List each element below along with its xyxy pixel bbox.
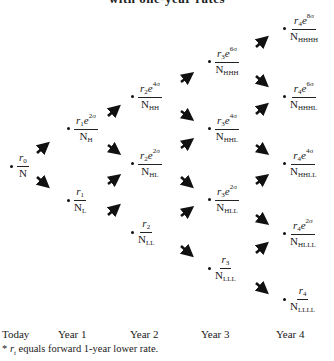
denominator: NHLL (216, 201, 238, 215)
node-fraction: r4e6σNHHHL (290, 81, 317, 112)
denominator: N (19, 167, 27, 181)
node-dot (67, 199, 70, 202)
numerator: r2e2σ (138, 148, 162, 165)
denominator: NHHHL (290, 98, 317, 112)
node-y2-hh: r2e4σNHH (131, 81, 162, 112)
node-fraction: r4e4σNHHLL (290, 148, 317, 179)
node-fraction: r1e2σNH (74, 113, 98, 144)
footnote: * rt equals forward 1-year lower rate. (2, 343, 158, 357)
denominator: NHLLL (290, 235, 316, 249)
denominator: NHL (141, 165, 158, 179)
numerator: r3e4σ (215, 113, 239, 130)
numerator: r0 (17, 152, 29, 167)
node-y3-hhh: r3e6σNHHH (208, 46, 239, 77)
node-y4-hhhl: r4e6σNHHHL (283, 81, 317, 112)
node-dot (208, 267, 211, 270)
numerator: r2e4σ (138, 81, 162, 98)
numerator: r3e2σ (215, 184, 239, 201)
node-dot (283, 27, 286, 30)
node-dot (131, 162, 134, 165)
node-y4-hlll: r4e2σNHLLL (283, 218, 316, 249)
node-dot (283, 95, 286, 98)
node-fraction: r3e4σNHHL (215, 113, 239, 144)
node-dot (208, 60, 211, 63)
denominator: NHH (141, 98, 159, 112)
numerator: r1e2σ (74, 113, 98, 130)
node-y2-hl: r2e2σNHL (131, 148, 162, 179)
node-y3-hhl: r3e4σNHHL (208, 113, 239, 144)
node-y4-llll: r4NLLLL (283, 285, 315, 314)
denominator: NHHH (215, 63, 238, 77)
node-fraction: r2e2σNHL (138, 148, 162, 179)
node-fraction: r4e8σNHHHH (290, 13, 318, 44)
node-y4-hhll: r4e4σNHHLL (283, 148, 317, 179)
axis-label-year1: Year 1 (58, 328, 87, 340)
denominator: NH (79, 130, 92, 144)
node-dot (131, 231, 134, 234)
node-fraction: r4e2σNHLLL (290, 218, 316, 249)
denominator: NHHLL (290, 165, 317, 179)
denominator: NLL (138, 233, 155, 247)
numerator: r4 (297, 285, 309, 300)
node-fraction: r2NLL (138, 218, 155, 247)
numerator: r3 (220, 254, 232, 269)
node-fraction: r1NL (74, 186, 86, 215)
numerator: r4e4σ (291, 148, 315, 165)
node-today: r0N (10, 152, 29, 181)
node-dot (283, 162, 286, 165)
axis-label-today: Today (2, 328, 29, 340)
numerator: r4e2σ (291, 218, 315, 235)
node-y3-hll: r3e2σNHLL (208, 184, 239, 215)
denominator: NLLLL (290, 300, 315, 314)
node-dot (283, 298, 286, 301)
numerator: r3e6σ (215, 46, 239, 63)
diagram-title: with one-year rates (0, 0, 334, 7)
node-y2-ll: r2NLL (131, 218, 155, 247)
axis-label-year2: Year 2 (130, 328, 159, 340)
node-dot (10, 165, 13, 168)
node-fraction: r3NLLL (215, 254, 236, 283)
node-fraction: r3e2σNHLL (215, 184, 239, 215)
axis-label-year4: Year 4 (276, 328, 305, 340)
numerator: r4e6σ (292, 81, 316, 98)
node-dot (208, 198, 211, 201)
axis-label-year3: Year 3 (201, 328, 230, 340)
denominator: NLLL (215, 269, 236, 283)
node-fraction: r0N (17, 152, 29, 181)
denominator: NL (74, 201, 86, 215)
denominator: NHHHH (290, 30, 318, 44)
node-y1-h: r1e2σNH (67, 113, 98, 144)
node-dot (67, 127, 70, 130)
node-y4-hhhh: r4e8σNHHHH (283, 13, 318, 44)
numerator: r1 (74, 186, 86, 201)
node-dot (208, 127, 211, 130)
numerator: r2 (140, 218, 152, 233)
denominator: NHHL (216, 130, 238, 144)
node-fraction: r4NLLLL (290, 285, 315, 314)
node-fraction: r2e4σNHH (138, 81, 162, 112)
node-dot (283, 232, 286, 235)
node-fraction: r3e6σNHHH (215, 46, 239, 77)
numerator: r4e8σ (292, 13, 316, 30)
node-y3-lll: r3NLLL (208, 254, 236, 283)
node-dot (131, 95, 134, 98)
node-y1-l: r1NL (67, 186, 86, 215)
